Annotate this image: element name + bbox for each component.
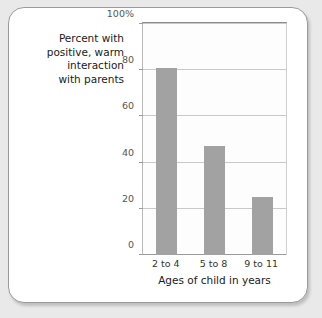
x-tick-label-2-to-4: 2 to 4	[152, 258, 180, 269]
y-tick-label-80: 80	[122, 54, 134, 65]
figure-root: Percent with positive, warm interaction …	[0, 0, 322, 318]
y-tickmark-0	[139, 254, 143, 255]
y-tickmark-40	[139, 162, 143, 163]
y-tickmark-60	[139, 115, 143, 116]
y-tickmark-20	[139, 208, 143, 209]
y-tickmark-100	[139, 23, 143, 24]
y-tick-label-0: 0	[128, 239, 134, 250]
bar-2-to-4[interactable]	[156, 68, 177, 255]
x-tick-label-5-to-8: 5 to 8	[200, 258, 228, 269]
y-tick-label-100: 100%	[107, 8, 134, 19]
plot-area	[142, 22, 287, 255]
bar-5-to-8[interactable]	[204, 146, 225, 255]
y-tickmark-80	[139, 69, 143, 70]
gridline-100	[143, 23, 286, 24]
x-axis-tick-labels: 2 to 45 to 89 to 11	[142, 258, 287, 272]
y-tick-label-40: 40	[122, 146, 134, 157]
y-tick-label-20: 20	[122, 192, 134, 203]
x-tick-label-9-to-11: 9 to 11	[244, 258, 278, 269]
y-axis-tick-labels: 100%806040200	[96, 22, 138, 255]
bar-9-to-11[interactable]	[252, 197, 273, 255]
y-tick-label-60: 60	[122, 100, 134, 111]
x-axis-title: Ages of child in years	[142, 274, 287, 286]
